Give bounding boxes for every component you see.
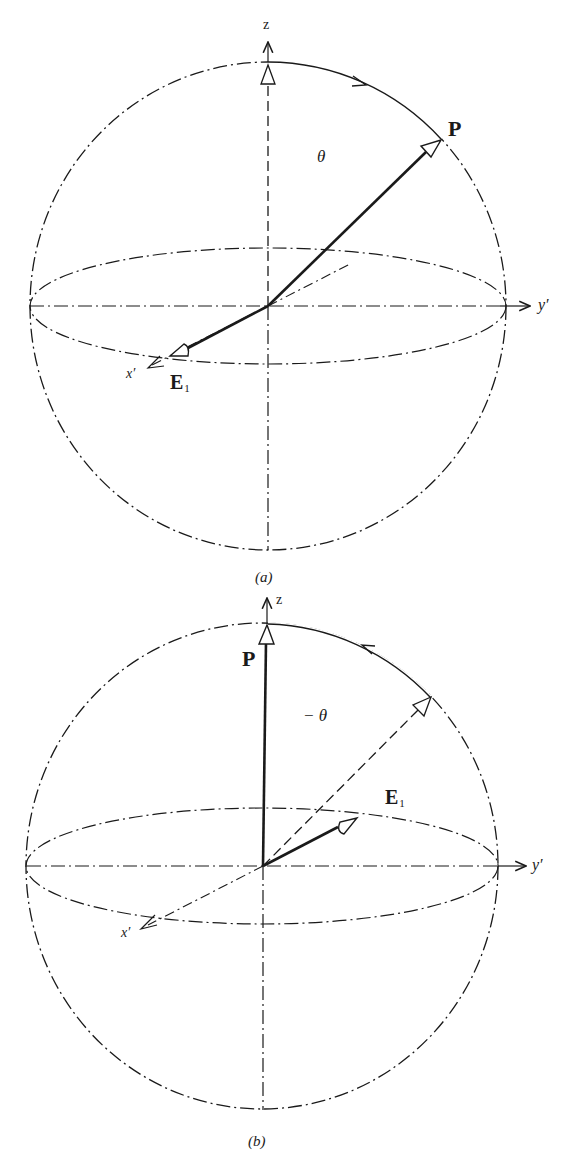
z-vector-head-icon-a bbox=[261, 65, 275, 84]
figure-b bbox=[26, 598, 526, 1110]
angle-label-b: − θ bbox=[303, 707, 327, 724]
y-axis-label-a: y′ bbox=[538, 297, 549, 313]
e-label-a: E bbox=[170, 371, 183, 393]
p-vector-a bbox=[268, 152, 426, 306]
e-label-b: E bbox=[385, 786, 398, 808]
e1-label-a: E1 bbox=[170, 372, 190, 394]
x-axis-b bbox=[148, 866, 263, 925]
z-axis-label-b: z bbox=[276, 593, 282, 607]
p-vector-b bbox=[263, 642, 266, 866]
y-axis-label-b: y′ bbox=[532, 857, 543, 873]
rotation-arc-b bbox=[268, 624, 431, 698]
p-vector-head-icon-b bbox=[259, 625, 274, 644]
angle-label-a: θ bbox=[317, 148, 325, 165]
e1-vector-a bbox=[188, 306, 268, 348]
z-axis-label-a: z bbox=[263, 18, 269, 32]
caption-a: (a) bbox=[255, 570, 273, 585]
p-label-b: P bbox=[242, 648, 255, 670]
diagram-canvas bbox=[0, 0, 570, 1157]
rotation-arc-a bbox=[268, 62, 441, 139]
e-subscript-a: 1 bbox=[184, 382, 190, 394]
e1-label-b: E1 bbox=[385, 787, 405, 809]
e1-vector-head-icon-a bbox=[170, 344, 189, 356]
x-axis-label-b: x′ bbox=[121, 926, 130, 940]
e-subscript-b: 1 bbox=[399, 797, 405, 809]
caption-b: (b) bbox=[248, 1134, 266, 1149]
e1-vector-b bbox=[263, 827, 338, 866]
p-label-a: P bbox=[448, 118, 461, 140]
e1-vector-head-icon-b bbox=[339, 818, 357, 834]
x-axis-label-a: x′ bbox=[126, 367, 135, 381]
projection-line-a bbox=[268, 264, 350, 306]
